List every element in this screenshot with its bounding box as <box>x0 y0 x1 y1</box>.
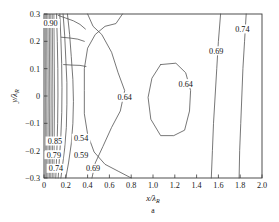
y-axis-title: y/λR <box>10 89 20 104</box>
x-axis-tick-label: 1.4 <box>191 181 201 190</box>
y-axis-tick-label: 0 <box>36 92 40 101</box>
x-axis-tick-label: 1.6 <box>213 181 223 190</box>
y-axis-tick-label: −0.1 <box>25 119 40 128</box>
contour-line <box>148 63 191 135</box>
contour-value-label: 0.64 <box>117 93 131 102</box>
contour-value-label: 0.74 <box>49 164 63 173</box>
y-axis-tick-label: 0.1 <box>30 65 40 74</box>
contour-value-label: 0.64 <box>179 80 193 89</box>
contour-value-label: 0.90 <box>43 19 57 28</box>
y-axis-tick-label: 0.3 <box>30 10 40 19</box>
contour-line <box>211 14 220 178</box>
x-axis-tick-labels-group: 00.20.40.60.81.01.21.41.61.82.0 <box>42 181 267 190</box>
y-axis-tick-label: −0.3 <box>25 174 40 183</box>
contour-value-labels-group: 0.900.850.540.790.590.740.690.640.640.69… <box>41 19 252 173</box>
x-axis-ticks-group <box>44 175 262 179</box>
x-axis-tick-label: 0.8 <box>126 181 136 190</box>
contour-value-label: 0.54 <box>74 134 88 143</box>
figure-caption: a <box>151 206 155 215</box>
contour-value-label: 0.59 <box>74 151 88 160</box>
x-axis-tick-label: 0.2 <box>61 181 71 190</box>
x-axis-tick-label: 1.0 <box>148 181 158 190</box>
contour-figure: 00.20.40.60.81.01.21.41.61.82.0 0.30.20.… <box>0 0 279 222</box>
y-axis-tick-label: 0.2 <box>30 37 40 46</box>
contour-value-label: 0.69 <box>209 47 223 56</box>
contour-value-label: 0.79 <box>47 151 61 160</box>
x-axis-tick-label: 2.0 <box>257 181 267 190</box>
contour-line <box>64 65 86 67</box>
x-axis-title: x/λR <box>145 194 160 204</box>
contour-line <box>239 14 246 178</box>
y-axis-tick-labels-group: 0.30.20.10−0.1−0.2−0.3 <box>25 10 40 183</box>
y-axis-title-subscript: R <box>14 89 20 94</box>
x-axis-tick-label: 0.6 <box>104 181 114 190</box>
contour-value-label: 0.85 <box>48 137 62 146</box>
x-axis-tick-label: 1.2 <box>170 181 180 190</box>
contour-value-label: 0.69 <box>86 164 100 173</box>
contour-value-label: 0.74 <box>235 25 249 34</box>
x-axis-title-subscript: R <box>155 198 160 204</box>
x-axis-tick-label: 1.8 <box>235 181 245 190</box>
contour-plot-svg: 00.20.40.60.81.01.21.41.61.82.0 0.30.20.… <box>0 0 279 222</box>
contour-line <box>58 15 85 29</box>
x-axis-tick-label: 0 <box>42 181 46 190</box>
y-axis-tick-label: −0.2 <box>25 147 40 156</box>
x-axis-tick-label: 0.4 <box>82 181 92 190</box>
